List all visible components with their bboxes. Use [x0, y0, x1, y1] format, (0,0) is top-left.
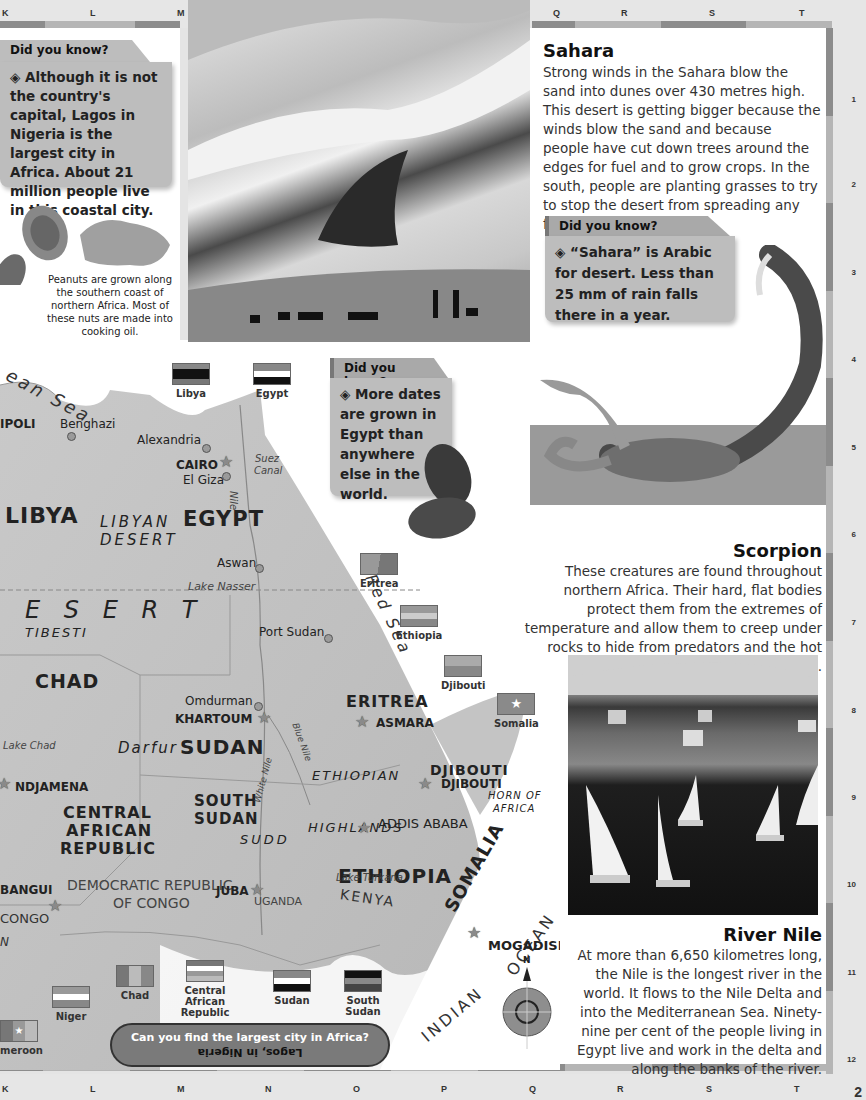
libya-flag-icon — [172, 363, 210, 385]
grid-letter: K — [2, 1084, 9, 1094]
chad-flag-icon — [116, 965, 154, 987]
did-you-know-lagos: Did you know? ◈ Although it is not the c… — [0, 40, 172, 190]
dates-image — [400, 440, 490, 540]
capital-star-icon: ★ — [355, 714, 369, 730]
country-label-sudan: SUDAN — [180, 735, 264, 759]
country-label-south-sudan: SUDAN — [194, 810, 259, 828]
city-label-tripoli: IPOLI — [0, 417, 36, 431]
quiz-question: Can you find the largest city in Africa? — [112, 1031, 388, 1044]
cameroon-flag-icon: ★ — [0, 1020, 38, 1042]
city-label-aswan: Aswan — [217, 556, 256, 570]
grid-row-number: 2 — [852, 180, 856, 189]
grid-row-number: 12 — [847, 1055, 856, 1064]
dyk-heading: Did you know? — [330, 358, 448, 378]
region-label-libyan-desert: DESERT — [100, 531, 178, 549]
river-nile-text: At more than 6,650 kilometres long, the … — [555, 946, 822, 1079]
grid-row-number: 4 — [852, 355, 856, 364]
flag-egypt: Egypt — [253, 363, 291, 399]
grid-letter: L — [90, 1084, 96, 1094]
country-label-car: AFRICAN — [66, 821, 152, 840]
grid-right-rail: 1 2 3 4 5 6 7 8 9 10 11 12 2 — [832, 0, 866, 1100]
sahara-title: Sahara — [543, 40, 821, 61]
grid-color-bar — [0, 21, 180, 28]
flag-libya: Libya — [172, 363, 210, 399]
egypt-flag-icon — [253, 363, 291, 385]
flag-sudan: Sudan — [273, 970, 311, 1006]
capital-star-icon: ★ — [467, 925, 481, 941]
sahara-section: Sahara Strong winds in the Sahara blow t… — [543, 40, 821, 234]
grid-row-number: 5 — [852, 443, 856, 452]
city-label-omdurman: Omdurman — [185, 694, 253, 708]
capital-star-icon: ★ — [257, 710, 271, 726]
flag-chad: Chad — [116, 965, 154, 1001]
grid-letter: Q — [529, 1084, 536, 1094]
region-label-sahara-desert: E S E R T — [25, 596, 204, 624]
compass-north-label: N — [523, 955, 531, 965]
diamond-bullet-icon: ◈ — [10, 69, 20, 85]
grid-letter: P — [441, 1084, 447, 1094]
region-label-libyan-desert: LIBYAN — [100, 513, 170, 531]
grid-letter: S — [706, 1084, 712, 1094]
city-dot — [222, 472, 231, 481]
diamond-bullet-icon: ◈ — [340, 386, 350, 402]
flag-niger: Niger — [52, 986, 90, 1022]
river-nile-title: River Nile — [530, 924, 822, 945]
city-label-cairo: CAIRO — [176, 458, 218, 472]
peanuts-figure: Peanuts are grown along the southern coa… — [0, 205, 180, 345]
sahara-dunes-photo — [188, 0, 530, 342]
grid-letter: M — [177, 8, 185, 18]
scorpion-section: Scorpion — [532, 540, 822, 561]
country-label-car: CENTRAL — [63, 803, 152, 822]
country-label-eritrea: ERITREA — [346, 692, 429, 711]
city-label-ndjamena: NDJAMENA — [15, 780, 88, 794]
scorpion-photo — [530, 245, 826, 505]
city-label-bangui: BANGUI — [0, 883, 53, 897]
region-label-horn-of-africa: AFRICA — [493, 803, 535, 814]
grid-letter: T — [799, 8, 805, 18]
city-label-el-giza: El Giza — [183, 473, 224, 487]
river-nile-text-wrap: At more than 6,650 kilometres long, the … — [555, 946, 822, 1079]
country-label-car: REPUBLIC — [60, 839, 156, 858]
city-label-djibouti: DJIBOUTI — [441, 777, 502, 791]
capital-star-icon: ★ — [418, 776, 432, 792]
region-label-ethiopian-highlands: ETHIOPIAN — [312, 768, 400, 783]
capital-star-icon: ★ — [219, 454, 233, 470]
country-label-congo: CONGO — [0, 911, 49, 926]
flag-central-african-republic: Central African Republic — [170, 960, 240, 1018]
country-label-libya: LIBYA — [5, 503, 79, 528]
grid-row-number: 9 — [852, 793, 856, 802]
south-sudan-flag-icon — [344, 970, 382, 992]
city-label-khartoum: KHARTOUM — [175, 712, 252, 726]
grid-letter: Q — [553, 8, 560, 18]
city-dot — [202, 444, 211, 453]
country-label-egypt: EGYPT — [183, 507, 264, 531]
capital-star-icon: ★ — [250, 882, 264, 898]
country-label-chad: CHAD — [35, 670, 99, 692]
city-label-alexandria: Alexandria — [137, 433, 201, 447]
grid-color-bar — [532, 21, 832, 28]
somalia-flag-icon: ★ — [497, 693, 535, 715]
compass-rose-icon: N — [502, 955, 552, 1050]
dyk-heading: Did you know? — [0, 40, 150, 62]
quiz-box: Can you find the largest city in Africa?… — [110, 1023, 390, 1067]
capital-star-icon: ★ — [357, 820, 371, 836]
grid-row-number: 6 — [852, 530, 856, 539]
city-dot — [67, 432, 76, 441]
river-nile-photo — [568, 655, 818, 915]
grid-row-number: 8 — [852, 706, 856, 715]
grid-row-number: 3 — [852, 268, 856, 277]
city-label-addis-ababa: ADDIS ABABA — [378, 816, 468, 831]
grid-row-number: 10 — [847, 880, 856, 889]
peanuts-caption: Peanuts are grown along the southern coa… — [40, 273, 180, 338]
quiz-answer-upside-down: Lagos, in Nigeria — [112, 1046, 388, 1059]
capital-star-icon: ★ — [0, 776, 11, 792]
region-label-darfur: Darfur — [118, 739, 178, 757]
grid-letter: S — [709, 8, 715, 18]
dyk-heading: Did you know? — [545, 216, 730, 236]
river-nile-section: River Nile — [530, 924, 822, 945]
city-label-benghazi: Benghazi — [60, 417, 115, 431]
water-label-suez-canal: Canal — [254, 465, 282, 476]
grid-letter: R — [617, 1084, 624, 1094]
grid-letter: T — [794, 1084, 800, 1094]
country-label-drc: OF CONGO — [113, 895, 190, 911]
